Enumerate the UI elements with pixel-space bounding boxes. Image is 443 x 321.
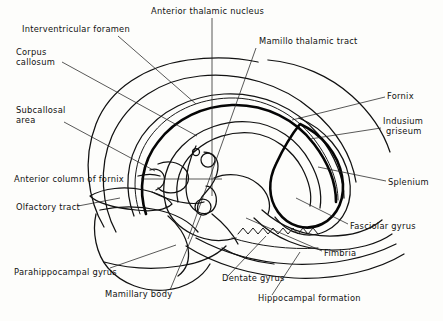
label-fornix: Fornix	[387, 91, 414, 101]
anatomy-diagram-svg: Interventricular foramen Anterior thalam…	[0, 0, 443, 321]
label-mamillary-body: Mamillary body	[105, 289, 172, 299]
thalamus-outline	[158, 162, 189, 193]
label-splenium: Splenium	[388, 177, 429, 187]
label-corpus-callosum-line1: Corpus	[16, 47, 47, 57]
leader-parahippocampal-gyrus	[110, 245, 176, 268]
corpus-callosum-outer	[128, 94, 344, 216]
fimbria-arc	[196, 238, 396, 264]
label-parahippocampal-gyrus: Parahippocampal gyrus	[14, 267, 117, 277]
septal-region-outline	[150, 169, 165, 190]
parahippocampal-lower-margin	[104, 246, 226, 268]
diagram-labels: Interventricular foramen Anterior thalam…	[14, 6, 429, 303]
label-corpus-callosum-line2: callosum	[16, 57, 55, 67]
midbrain-outline	[212, 214, 238, 244]
leader-olfactory-tract	[78, 198, 120, 206]
leader-indusium-griseum	[310, 128, 381, 139]
label-subcallosal-area-line2: area	[16, 115, 36, 125]
outer-cortical-outline	[88, 58, 258, 227]
label-anterior-thalamic-nucleus: Anterior thalamic nucleus	[151, 6, 264, 16]
label-olfactory-tract: Olfactory tract	[16, 202, 81, 212]
anatomy-figure: Interventricular foramen Anterior thalam…	[0, 0, 443, 321]
inner-spiral-loop	[214, 175, 270, 214]
hippocampal-formation-arc	[186, 246, 404, 278]
label-dentate-gyrus: Dentate gyrus	[222, 273, 285, 283]
fornix-arch-inner	[177, 133, 311, 206]
label-mamillo-thalamic-tract: Mamillo thalamic tract	[259, 36, 358, 46]
anterior-commissure	[138, 175, 160, 177]
fornix-body-descending	[166, 206, 236, 240]
label-anterior-column-of-fornix: Anterior column of fornix	[14, 174, 124, 184]
label-subcallosal-area-line1: Subcallosal	[16, 105, 66, 115]
label-fasciolar-gyrus: Fasciolar gyrus	[350, 221, 416, 231]
label-indusium-griseum-line2: griseum	[386, 126, 422, 136]
label-hippocampal-formation: Hippocampal formation	[258, 293, 361, 303]
fornix-column-bulb-circle	[201, 153, 215, 167]
leader-interventricular-foramen	[118, 36, 196, 104]
leader-subcallosal-area	[64, 122, 155, 171]
leader-corpus-callosum	[62, 62, 197, 136]
leader-splenium	[318, 167, 386, 181]
label-indusium-griseum-line1: Indusium	[383, 116, 423, 126]
label-fimbria: Fimbria	[324, 248, 356, 258]
label-interventricular-foramen: Interventricular foramen	[22, 24, 130, 34]
indusium-griseum-band	[135, 98, 338, 214]
